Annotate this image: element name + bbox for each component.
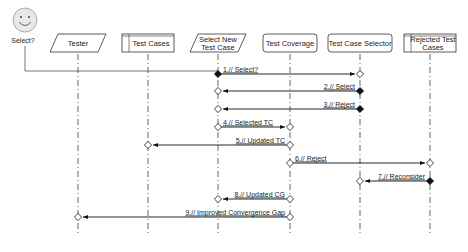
message-label: 8.// Updated CG bbox=[234, 191, 285, 199]
hollow-diamond-icon bbox=[356, 70, 363, 77]
message-7[interactable]: 7.// Reconsider bbox=[356, 173, 433, 185]
smiley-face-icon bbox=[13, 8, 37, 32]
lifeline-test-coverage[interactable]: Test Coverage bbox=[263, 34, 317, 236]
lifeline-label: Tester bbox=[68, 39, 89, 48]
filled-diamond-icon bbox=[214, 70, 221, 77]
actor-select: Select? bbox=[11, 8, 37, 44]
lifeline-rejected-test-cases[interactable]: Rejected TestCases bbox=[404, 34, 457, 236]
lifeline-select-new-test-case[interactable]: Select NewTest Case bbox=[190, 34, 246, 236]
message-2[interactable]: 2.// Select bbox=[214, 83, 363, 95]
message-label: 2.// Select bbox=[324, 83, 355, 90]
sequence-diagram: Select?TesterTest CasesSelect NewTest Ca… bbox=[0, 0, 468, 252]
message-4[interactable]: 4.// Selected TC bbox=[214, 119, 293, 131]
hollow-diamond-icon bbox=[214, 123, 221, 130]
arrowhead-icon bbox=[350, 72, 355, 76]
hollow-diamond-icon bbox=[426, 159, 433, 166]
message-label: 7.// Reconsider bbox=[378, 173, 426, 180]
hollow-diamond-icon bbox=[214, 87, 221, 94]
hollow-diamond-icon bbox=[356, 177, 363, 184]
lifeline-label: Test Cases bbox=[132, 39, 169, 48]
lifeline-label: Test Coverage bbox=[266, 39, 314, 48]
message-1[interactable]: 1.// Select? bbox=[214, 66, 363, 78]
message-label: 4.// Selected TC bbox=[223, 119, 273, 126]
hollow-diamond-icon bbox=[74, 213, 81, 220]
filled-diamond-icon bbox=[356, 105, 363, 112]
arrowhead-icon bbox=[223, 197, 228, 201]
arrowhead-icon bbox=[153, 143, 158, 147]
message-5[interactable]: 5.// Updated TC bbox=[144, 137, 293, 149]
hollow-diamond-icon bbox=[286, 159, 293, 166]
filled-diamond-icon bbox=[426, 177, 433, 184]
hollow-diamond-icon bbox=[286, 195, 293, 202]
hollow-diamond-icon bbox=[214, 105, 221, 112]
lifeline-label: Test Case bbox=[201, 43, 234, 52]
message-label: 6.// Reject bbox=[295, 155, 327, 163]
message-label: 3.// Reject bbox=[323, 101, 355, 109]
arrowhead-icon bbox=[223, 89, 228, 93]
message-label: 1.// Select? bbox=[223, 66, 258, 73]
hollow-diamond-icon bbox=[286, 141, 293, 148]
lifeline-label: Cases bbox=[422, 43, 444, 52]
hollow-diamond-icon bbox=[286, 123, 293, 130]
message-label: 9.// Improved Convergence Gap bbox=[185, 209, 285, 217]
actor-label: Select? bbox=[11, 37, 34, 44]
message-9[interactable]: 9.// Improved Convergence Gap bbox=[74, 209, 293, 221]
lifeline-test-cases[interactable]: Test Cases bbox=[122, 34, 174, 236]
arrowhead-icon bbox=[280, 125, 285, 129]
lifeline-label: Test Case Selector bbox=[329, 39, 392, 48]
message-label: 5.// Updated TC bbox=[236, 137, 285, 145]
arrowhead-icon bbox=[420, 161, 425, 165]
lifeline-test-case-selector[interactable]: Test Case Selector bbox=[328, 34, 392, 236]
arrowhead-icon bbox=[223, 107, 228, 111]
filled-diamond-icon bbox=[356, 87, 363, 94]
message-8[interactable]: 8.// Updated CG bbox=[214, 191, 293, 203]
message-3[interactable]: 3.// Reject bbox=[214, 101, 363, 113]
arrowhead-icon bbox=[83, 215, 88, 219]
hollow-diamond-icon bbox=[214, 195, 221, 202]
hollow-diamond-icon bbox=[144, 141, 151, 148]
arrowhead-icon bbox=[365, 179, 370, 183]
lifeline-tester[interactable]: Tester bbox=[50, 34, 106, 236]
hollow-diamond-icon bbox=[286, 213, 293, 220]
